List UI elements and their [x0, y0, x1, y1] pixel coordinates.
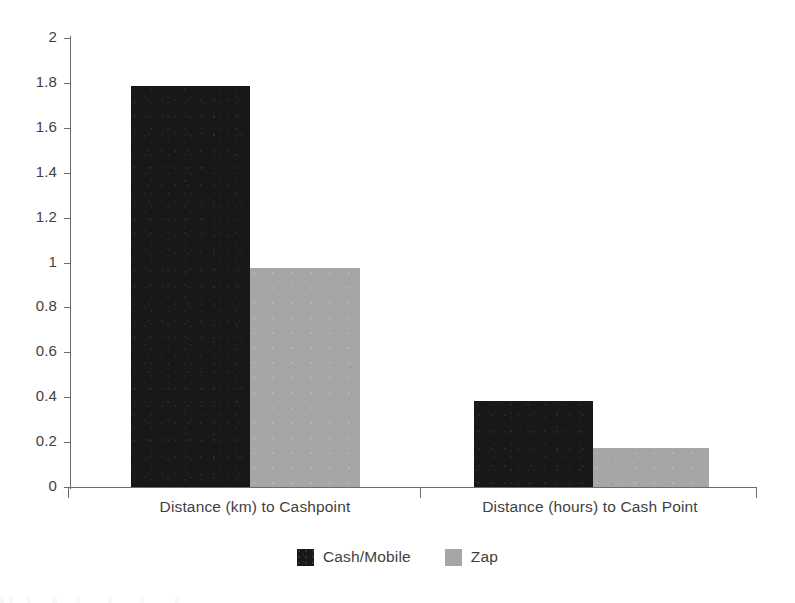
y-axis-tick-label: 1: [0, 253, 57, 270]
y-axis-tick-label: 2: [0, 28, 57, 45]
legend-swatch-icon-zap: [445, 549, 462, 566]
y-axis-tick-label: 1.4: [0, 163, 57, 180]
bar-cash-mobile-0: [131, 86, 250, 487]
y-axis-tick-label: 0: [0, 477, 57, 494]
y-axis-tick-label: 1.6: [0, 118, 57, 135]
y-axis-tick-label: 0.6: [0, 342, 57, 359]
bar-zap-1: [593, 448, 709, 487]
plot-area: [70, 38, 757, 487]
x-axis-line: [68, 487, 757, 488]
chart-legend: Cash/Mobile Zap: [0, 548, 795, 566]
legend-label-zap: Zap: [471, 548, 498, 566]
y-axis-tick-label: 0.4: [0, 387, 57, 404]
x-axis-tick-start: [68, 487, 69, 498]
y-axis-tick-label: 1.8: [0, 73, 57, 90]
bar-chart: 00.20.40.60.811.21.41.61.82 Distance (km…: [0, 0, 795, 603]
scan-edge-artifact: [0, 597, 795, 603]
x-axis-category-label-0: Distance (km) to Cashpoint: [105, 498, 405, 516]
legend-item-zap: Zap: [445, 548, 498, 566]
bar-cash-mobile-1: [474, 401, 593, 487]
bar-zap-0: [250, 268, 360, 487]
legend-label-cash-mobile: Cash/Mobile: [323, 548, 411, 566]
y-axis-tick-label: 0.8: [0, 297, 57, 314]
x-axis-tick-end: [756, 487, 757, 498]
y-axis-tick-label: 0.2: [0, 432, 57, 449]
x-axis-category-label-1: Distance (hours) to Cash Point: [435, 498, 745, 516]
y-axis-tick-label: 1.2: [0, 208, 57, 225]
x-axis-tick-separator: [420, 487, 421, 498]
legend-item-cash-mobile: Cash/Mobile: [297, 548, 411, 566]
legend-swatch-icon-cash-mobile: [297, 549, 314, 566]
